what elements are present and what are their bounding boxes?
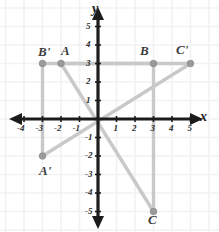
x-tick-label: -1 <box>73 124 81 133</box>
vertex-point <box>187 60 194 67</box>
vertex-point <box>58 60 65 67</box>
vertex-point <box>150 60 157 67</box>
x-tick-label: -3 <box>36 124 44 133</box>
vertex-label: A' <box>39 164 51 177</box>
x-tick-label: -4 <box>17 124 25 133</box>
vertex-label: C' <box>176 43 188 56</box>
y-tick-label: 1 <box>86 96 91 105</box>
y-tick-label: -2 <box>85 151 93 160</box>
vertex-point <box>39 60 46 67</box>
coordinate-plane-figure: -4-3-2-11234554321-1-2-3-4-5 B'ABC'A'C x… <box>0 0 219 232</box>
x-tick-label: 3 <box>151 124 156 133</box>
axes-group <box>9 7 203 229</box>
x-tick-label: 2 <box>132 124 137 133</box>
vertex-label: B' <box>38 45 50 58</box>
y-tick-label: 3 <box>86 59 91 68</box>
vertex-label: B <box>140 44 149 57</box>
y-axis-down-arrowhead <box>92 216 104 229</box>
y-tick-label: 5 <box>86 22 91 31</box>
y-axis-label: y <box>92 2 98 16</box>
vertex-label: C <box>148 213 157 226</box>
y-tick-label: 4 <box>86 40 91 49</box>
x-axis-label: x <box>200 110 207 124</box>
y-tick-label: -5 <box>85 207 93 216</box>
y-tick-label: -4 <box>85 188 93 197</box>
vertex-label: A <box>61 44 70 57</box>
x-tick-label: 4 <box>169 124 174 133</box>
y-tick-label: -3 <box>85 170 93 179</box>
y-tick-label: 2 <box>86 77 91 86</box>
x-tick-label: 5 <box>188 124 193 133</box>
x-tick-label: -2 <box>54 124 62 133</box>
vertex-point <box>39 153 46 160</box>
x-tick-label: 1 <box>114 124 119 133</box>
coordinate-plot-svg <box>0 0 219 232</box>
y-tick-label: -1 <box>85 133 93 142</box>
